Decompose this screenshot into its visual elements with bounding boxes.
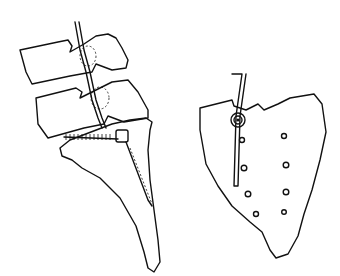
- vertebra-middle: [36, 80, 148, 138]
- foramen: [245, 191, 251, 197]
- screw-head: [116, 130, 128, 142]
- rod-posterior: [232, 74, 246, 186]
- spine-fixation-diagram: [0, 0, 340, 276]
- foramen: [282, 134, 287, 139]
- screw-head-center: [236, 118, 239, 121]
- foramen: [240, 138, 245, 143]
- sacrum-posterior: [200, 94, 326, 258]
- sacral-foramina: [240, 134, 289, 217]
- foramen: [283, 189, 289, 195]
- figure: [0, 0, 340, 276]
- posterior-view: [200, 74, 326, 258]
- vertebra-upper: [20, 34, 128, 84]
- foramen: [283, 162, 289, 168]
- sacrum-lateral: [60, 118, 160, 272]
- foramen: [282, 210, 287, 215]
- lateral-view: [20, 22, 160, 272]
- foramen: [241, 165, 247, 171]
- foramen: [254, 212, 259, 217]
